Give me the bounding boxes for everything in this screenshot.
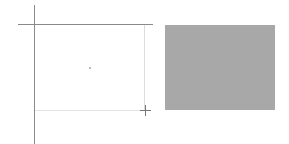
color-preview-swatch [165, 25, 275, 110]
vertical-guide-line[interactable] [34, 5, 35, 144]
horizontal-guide-line[interactable] [18, 24, 153, 25]
selection-frame-bottom-edge [35, 110, 145, 111]
crosshair-vertical [145, 105, 146, 116]
selection-center-point [89, 67, 91, 69]
selection-frame-right-edge [144, 25, 145, 111]
